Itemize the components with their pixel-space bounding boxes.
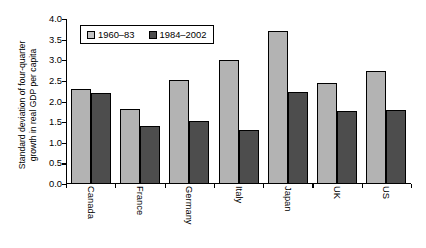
y-axis-tick-label: 3.5 (38, 35, 62, 44)
bar (189, 121, 209, 184)
x-axis-category-label: Italy (233, 186, 245, 248)
legend-entry: 1984–2002 (149, 30, 207, 39)
legend-entry: 1960–83 (87, 30, 135, 39)
bar (239, 130, 259, 184)
bar (337, 111, 357, 184)
x-axis-tick (411, 184, 412, 188)
y-axis-tick-label: 0.0 (38, 179, 62, 188)
legend-swatch-light-icon (87, 31, 95, 39)
y-axis-title-line-1: Standard deviation of four-quarter (17, 15, 28, 195)
y-axis-tick-label: 0.5 (38, 159, 62, 168)
chart-legend: 1960–831984–2002 (80, 25, 214, 44)
bar (120, 109, 140, 184)
bar (288, 92, 308, 184)
x-axis-category-label: UK (331, 186, 343, 248)
bar (71, 89, 91, 184)
bar (317, 83, 337, 184)
y-axis-tick-label: 4.0 (38, 14, 62, 23)
x-axis-category-label: Japan (282, 186, 294, 248)
legend-label: 1984–2002 (160, 30, 207, 39)
x-axis-category-label: France (134, 186, 146, 248)
bar (366, 71, 386, 184)
y-axis-tick-label: 2.0 (38, 97, 62, 106)
y-axis-tick-label: 3.0 (38, 56, 62, 65)
bar (140, 126, 160, 184)
x-axis-category-label: US (380, 186, 392, 248)
bar (219, 60, 239, 184)
bar (268, 31, 288, 184)
legend-label: 1960–83 (98, 30, 135, 39)
y-axis-tick-label: 2.5 (38, 76, 62, 85)
x-axis-category-labels: CanadaFranceGermanyItalyJapanUKUS (66, 186, 411, 248)
x-axis-category-label: Canada (85, 186, 97, 248)
bar-chart: Standard deviation of four-quarter growt… (0, 0, 426, 248)
bar (169, 80, 189, 184)
y-axis-tick-label: 1.5 (38, 117, 62, 126)
legend-swatch-dark-icon (149, 31, 157, 39)
bar (386, 110, 406, 184)
y-axis-tick-labels: 0.00.51.01.52.02.53.03.54.0 (38, 14, 62, 184)
y-axis-tick-label: 1.0 (38, 138, 62, 147)
bar (91, 93, 111, 184)
x-axis-category-label: Germany (183, 186, 195, 248)
